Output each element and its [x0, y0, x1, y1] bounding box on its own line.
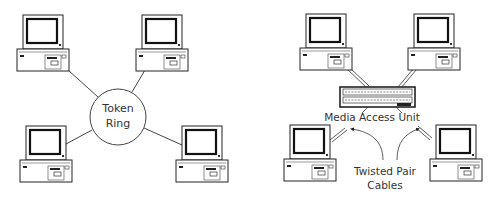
token-ring-diagram: Token Ring [17, 15, 228, 182]
cable-label-line1: Twisted Pair [353, 165, 416, 177]
token-ring-label-line2: Ring [106, 117, 131, 130]
computer-icon [176, 126, 228, 182]
cable-label-line2: Cables [367, 179, 402, 191]
computer-icon [17, 15, 69, 71]
computer-icon [300, 14, 352, 70]
network-topology-diagram: Token Ring Media Access Unit [0, 0, 497, 200]
mau-label: Media Access Unit [324, 111, 420, 123]
arrow-icon [397, 129, 418, 160]
computer-icon [136, 15, 188, 71]
media-access-unit-diagram: Media Access Unit Twisted Pair Cables [284, 14, 482, 191]
computer-icon [20, 126, 72, 182]
computer-icon [430, 125, 482, 181]
media-access-unit [340, 87, 415, 107]
computer-icon [284, 125, 336, 181]
computer-icon [408, 14, 460, 70]
arrow-icon [352, 129, 383, 160]
token-ring-label-line1: Token [101, 102, 133, 115]
